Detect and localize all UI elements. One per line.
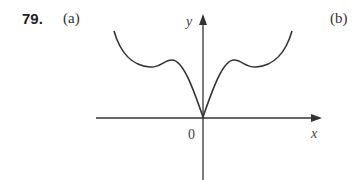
x-axis-label: x	[310, 126, 318, 141]
function-graph: y x 0	[0, 0, 359, 180]
y-axis-label: y	[184, 14, 193, 29]
y-axis-arrow-icon	[199, 14, 207, 25]
origin-label: 0	[188, 127, 195, 142]
x-axis-arrow-icon	[311, 114, 322, 122]
